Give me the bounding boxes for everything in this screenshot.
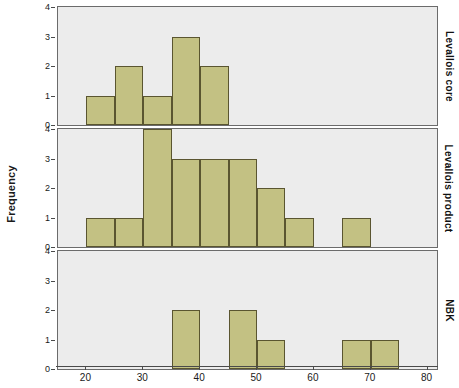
histogram-bar: [143, 96, 171, 126]
histogram-bar: [86, 218, 114, 248]
histogram-bar: [285, 218, 313, 248]
histogram-bar: [229, 310, 257, 369]
y-axis-tick-label: 1: [45, 335, 50, 345]
y-axis-panel-1: 01234: [22, 128, 56, 248]
histogram-bar: [371, 340, 399, 370]
x-axis-tick-label: 70: [364, 372, 375, 383]
y-axis-panel-0: 01234: [22, 6, 56, 126]
y-axis-title-label: Frequency: [5, 165, 17, 222]
bars-panel-1: [58, 129, 437, 247]
y-axis-tick-mark: [51, 281, 55, 282]
x-axis-tick-mark: [85, 366, 86, 370]
panel-stack: 01234 Levallois core 01234 Levallois pro…: [22, 6, 459, 388]
y-axis-title: Frequency: [2, 0, 20, 388]
histogram-figure: Frequency 01234 Levallois core 01234 Lev…: [0, 0, 459, 388]
y-axis-panel-2: 01234: [22, 250, 56, 370]
panel-strip-label-2: NBK: [439, 250, 459, 370]
histogram-bar: [229, 159, 257, 248]
histogram-bar: [172, 310, 200, 369]
histogram-bar: [342, 218, 370, 248]
y-axis-tick-mark: [51, 310, 55, 311]
y-axis-tick-label: 1: [45, 91, 50, 101]
y-axis-tick-mark: [51, 7, 55, 8]
y-axis-tick-mark: [51, 125, 55, 126]
y-axis-tick-mark: [51, 37, 55, 38]
x-axis-tick-mark: [199, 366, 200, 370]
y-axis-tick-mark: [51, 369, 55, 370]
y-axis-tick-mark: [51, 218, 55, 219]
histogram-bar: [257, 340, 285, 370]
plot-area-panel-2: [57, 250, 438, 370]
histogram-bar: [115, 218, 143, 248]
plot-area-panel-1: [57, 128, 438, 248]
y-axis-tick-label: 3: [45, 154, 50, 164]
x-axis-tick-mark: [142, 366, 143, 370]
x-axis-tick-label: 20: [80, 372, 91, 383]
bars-panel-0: [58, 7, 437, 125]
histogram-bar: [172, 159, 200, 248]
panel-label-text-2: NBK: [444, 299, 455, 322]
panel-strip-label-1: Levallois product: [439, 128, 459, 248]
y-axis-tick-label: 4: [45, 246, 50, 256]
x-axis-tick-label: 40: [194, 372, 205, 383]
panel-strip-label-0: Levallois core: [439, 6, 459, 126]
y-axis-tick-label: 3: [45, 32, 50, 42]
x-axis: 20304050607080: [57, 366, 438, 388]
x-axis-tick-mark: [313, 366, 314, 370]
y-axis-tick-mark: [51, 66, 55, 67]
x-axis-tick-mark: [256, 366, 257, 370]
histogram-bar: [342, 340, 370, 370]
x-axis-tick-label: 80: [421, 372, 432, 383]
histogram-bar: [143, 129, 171, 247]
histogram-bar: [172, 37, 200, 126]
y-axis-tick-label: 4: [45, 2, 50, 12]
y-axis-tick-label: 4: [45, 124, 50, 134]
plot-area-panel-0: [57, 6, 438, 126]
y-axis-tick-mark: [51, 129, 55, 130]
panel-label-text-1: Levallois product: [444, 144, 455, 232]
x-axis-line: [56, 366, 438, 367]
x-axis-tick-label: 30: [137, 372, 148, 383]
y-axis-tick-label: 2: [45, 305, 50, 315]
histogram-bar: [200, 159, 228, 248]
y-axis-tick-label: 0: [45, 364, 50, 374]
x-axis-tick-mark: [370, 366, 371, 370]
y-axis-tick-mark: [51, 159, 55, 160]
panel-levallois-core: 01234 Levallois core: [22, 6, 459, 126]
y-axis-tick-mark: [51, 96, 55, 97]
histogram-bar: [200, 66, 228, 125]
panel-levallois-product: 01234 Levallois product: [22, 128, 459, 248]
x-axis-tick-mark: [427, 366, 428, 370]
y-axis-tick-label: 3: [45, 276, 50, 286]
y-axis-tick-label: 1: [45, 213, 50, 223]
panel-nbk: 01234 NBK: [22, 250, 459, 370]
x-axis-tick-label: 50: [250, 372, 261, 383]
bars-panel-2: [58, 251, 437, 369]
y-axis-tick-mark: [51, 340, 55, 341]
y-axis-tick-label: 2: [45, 61, 50, 71]
panel-label-text-0: Levallois core: [444, 31, 455, 102]
histogram-bar: [86, 96, 114, 126]
y-axis-tick-mark: [51, 251, 55, 252]
x-axis-tick-label: 60: [307, 372, 318, 383]
y-axis-tick-mark: [51, 188, 55, 189]
histogram-bar: [257, 188, 285, 247]
y-axis-tick-label: 2: [45, 183, 50, 193]
histogram-bar: [115, 66, 143, 125]
y-axis-tick-mark: [51, 247, 55, 248]
